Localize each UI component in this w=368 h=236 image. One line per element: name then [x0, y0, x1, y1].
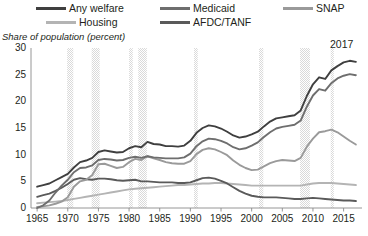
x-tick-label: 2005 [267, 214, 297, 224]
x-tick-label: 2000 [237, 214, 267, 224]
x-tick-label: 1980 [114, 214, 144, 224]
x-tick-label: 1975 [83, 214, 113, 224]
x-tick-label: 1985 [145, 214, 175, 224]
x-tick-label: 1965 [22, 214, 52, 224]
x-tick-label: 1995 [206, 214, 236, 224]
x-tick-label: 1990 [175, 214, 205, 224]
chart-root: Any welfare Medicaid SNAP Housing AFDC/T… [0, 0, 368, 236]
annotation-2017: 2017 [330, 38, 353, 50]
x-tick-label: 2010 [298, 214, 328, 224]
x-axis-tick-labels: 1965197019751980198519901995200020052010… [0, 0, 368, 236]
x-tick-label: 2015 [329, 214, 359, 224]
x-tick-label: 1970 [53, 214, 83, 224]
